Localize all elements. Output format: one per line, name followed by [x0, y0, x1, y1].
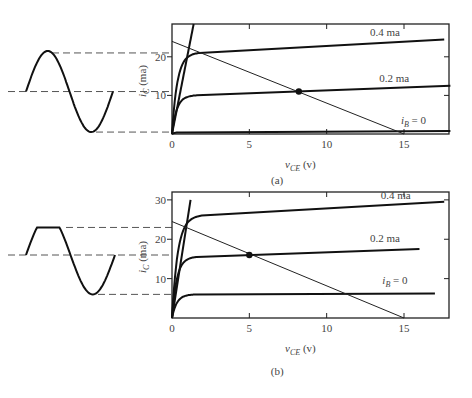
y-tick-label: 20: [155, 51, 167, 63]
x-tick-label: 0: [169, 322, 175, 334]
x-axis-label: vCE (v): [285, 342, 316, 357]
x-tick-label: 10: [321, 322, 333, 334]
load-line: [172, 41, 404, 134]
y-tick-label: 30: [155, 194, 167, 206]
x-tick-label: 15: [399, 138, 411, 150]
ic-curve: [172, 202, 444, 318]
curve-label: 0.4 ma: [381, 189, 411, 201]
curve-label: iB = 0: [382, 274, 408, 289]
x-tick-label: 15: [399, 322, 411, 334]
curve-label: 0.4 ma: [370, 26, 400, 38]
y-axis-label: iC (ma): [136, 241, 151, 273]
q-point: [246, 252, 252, 258]
saturation-line: [172, 24, 194, 134]
x-tick-label: 10: [321, 138, 333, 150]
y-axis-label: iC (ma): [136, 65, 151, 97]
x-tick-label: 0: [169, 138, 175, 150]
panel-b: 051015102030 iB = 00.2 ma0.4 ma (b) vCE …: [8, 189, 449, 378]
curve-label: 0.2 ma: [370, 232, 400, 244]
sine-wave: [26, 227, 115, 294]
curve-label: iB = 0: [401, 114, 427, 129]
input-waveform: [26, 227, 115, 294]
curve-label: 0.2 ma: [379, 72, 409, 84]
panel-caption: (b): [271, 365, 284, 378]
q-point: [296, 88, 302, 94]
load-line-figure: 0510151020 iB = 00.2 ma0.4 ma (a) vCE (v…: [0, 0, 472, 398]
x-tick-label: 5: [247, 322, 253, 334]
y-tick-label: 20: [155, 233, 167, 245]
x-tick-label: 5: [247, 138, 253, 150]
characteristic-curves: [172, 200, 444, 318]
panel-caption: (a): [271, 174, 284, 187]
y-tick-label: 10: [155, 89, 167, 101]
plot-frame: [172, 192, 449, 318]
panel-a: 0510151020 iB = 00.2 ma0.4 ma (a) vCE (v…: [8, 24, 450, 187]
axis-ticks: 051015102030: [155, 192, 449, 334]
x-axis-label: vCE (v): [285, 158, 316, 173]
y-tick-label: 10: [155, 273, 167, 285]
